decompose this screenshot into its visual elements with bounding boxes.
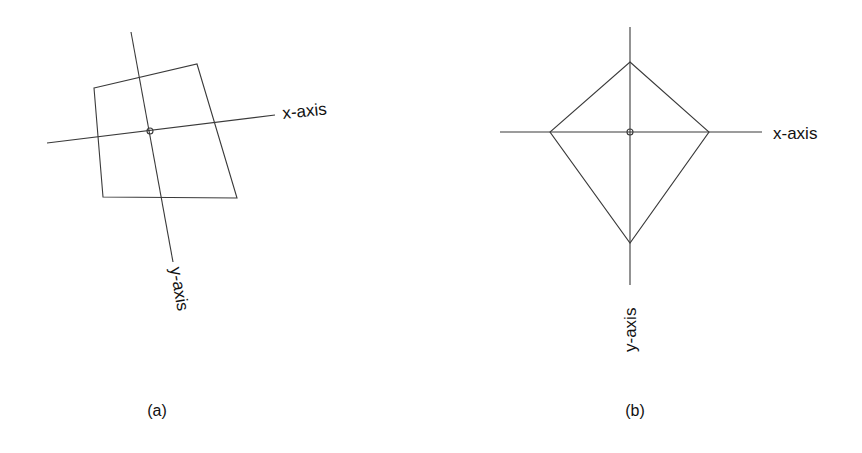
panel-a-y-axis-label: y-axis [166, 265, 192, 312]
panel-a-x-axis-label: x-axis [281, 99, 327, 123]
panel-b-y-axis-label: y-axis [621, 308, 640, 352]
panel-a-quadrilateral [94, 64, 237, 198]
panel-a: x-axis y-axis (a) [47, 32, 328, 419]
panel-b-x-axis-label: x-axis [773, 124, 817, 143]
figure-canvas: x-axis y-axis (a) x-axis y-axis (b) [0, 0, 862, 453]
panel-a-y-axis-line [131, 32, 173, 262]
panel-a-caption: (a) [147, 402, 167, 419]
panel-a-x-axis-line [47, 115, 275, 143]
panel-b-caption: (b) [625, 402, 645, 419]
panel-b: x-axis y-axis (b) [500, 27, 817, 419]
